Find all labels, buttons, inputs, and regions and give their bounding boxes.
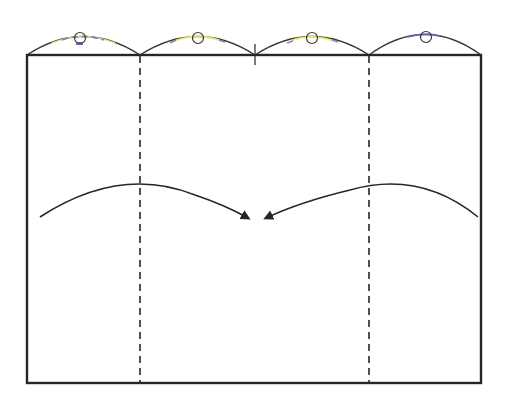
top-arc-4: [369, 32, 481, 56]
paper-outline: [27, 55, 481, 383]
right-fold-arrow: [266, 184, 478, 218]
top-arc-2: [140, 33, 255, 56]
top-arc-3: [255, 33, 369, 56]
circle-icon: [193, 33, 204, 44]
top-arcs: [27, 32, 481, 56]
circle-icon: [421, 32, 432, 43]
top-arc-1: [27, 33, 140, 56]
circle-icon: [75, 33, 86, 44]
left-fold-arrow: [40, 184, 248, 218]
folding-diagram: [0, 0, 514, 402]
